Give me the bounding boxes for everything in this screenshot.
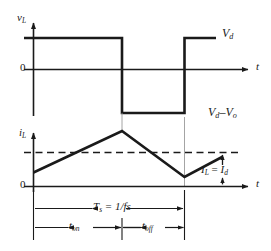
- voltage-waveform: [24, 38, 216, 113]
- label-Vd: Vd: [222, 27, 233, 39]
- label-t-axis-bottom: t: [256, 178, 259, 189]
- label-zero-bottom: 0: [20, 179, 26, 190]
- label-inductor-voltage-axis: vL: [17, 12, 26, 23]
- label-switching-period: Ts = 1/fs: [93, 201, 131, 212]
- label-inductor-current-axis: iL: [19, 127, 26, 138]
- guide-lines: [122, 113, 185, 186]
- label-Vd-minus-Vo: Vd–Vo: [208, 106, 237, 118]
- label-t-on: ton: [69, 220, 80, 231]
- waveform-figure: vL 0 t Vd Vd–Vo iL 0 t IL = Id Ts = 1/fs…: [0, 0, 271, 251]
- dimension-extension-lines: [34, 190, 185, 240]
- label-zero-top: 0: [20, 62, 26, 73]
- label-t-axis-top: t: [256, 61, 259, 72]
- label-IL-equals-Id: IL = Id: [201, 164, 228, 175]
- current-waveform: [34, 131, 224, 177]
- label-t-off: toff: [142, 220, 153, 231]
